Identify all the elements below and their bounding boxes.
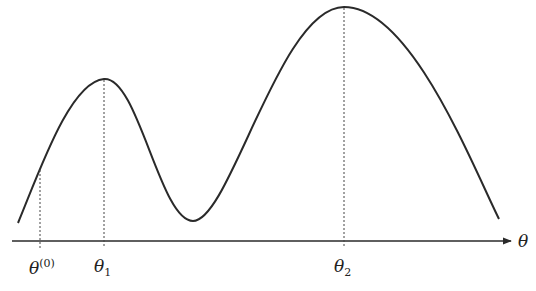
objective-curve	[18, 7, 499, 223]
likelihood-curve-diagram	[0, 0, 536, 291]
tick-label-theta0: θ(0)	[29, 258, 55, 277]
axis-label-theta: θ	[518, 233, 528, 250]
tick-label-theta1: θ1	[94, 258, 111, 278]
tick-label-theta2: θ2	[334, 258, 351, 278]
